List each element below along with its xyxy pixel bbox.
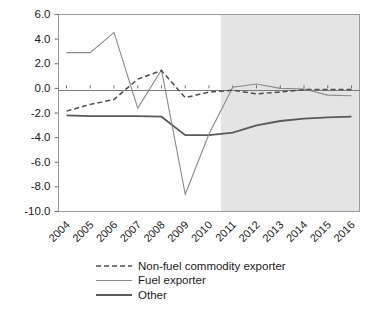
legend-label-2: Fuel exporter — [138, 274, 206, 286]
y-axis-tick-label: -4.0 — [31, 131, 51, 143]
y-axis-tick-label: 4.0 — [35, 33, 51, 45]
line-chart: 6.04.02.00.0-2.0-4.0-6.0-8.0-10.0 200420… — [0, 0, 372, 310]
forecast-shading-group — [221, 15, 360, 212]
y-axis-tick-label: 6.0 — [35, 8, 51, 20]
x-axis-tick-label: 2015 — [307, 218, 333, 244]
legend-label-3: Other — [138, 289, 167, 301]
x-axis-tick-label: 2010 — [189, 218, 215, 244]
x-axis-tick-label: 2012 — [236, 218, 262, 244]
x-axis-tick-label: 2011 — [213, 218, 238, 243]
y-axis-tick-marks — [55, 15, 59, 212]
y-axis-tick-label: 0.0 — [35, 82, 51, 94]
y-axis-tick-label: -6.0 — [31, 156, 51, 168]
y-axis-tick-label: -8.0 — [31, 180, 51, 192]
y-axis-tick-labels: 6.04.02.00.0-2.0-4.0-6.0-8.0-10.0 — [24, 8, 50, 217]
x-axis-tick-label: 2004 — [46, 218, 72, 244]
y-axis-tick-label: -10.0 — [24, 205, 50, 217]
chart-container: 6.04.02.00.0-2.0-4.0-6.0-8.0-10.0 200420… — [0, 0, 372, 310]
legend-label-1: Non-fuel commodity exporter — [138, 260, 286, 272]
x-axis-tick-label: 2008 — [141, 218, 167, 244]
x-axis-tick-label: 2013 — [260, 218, 286, 244]
x-axis-labels-group: 2004200520062007200820092010201120122013… — [46, 218, 357, 244]
y-axis-tick-label: 2.0 — [35, 57, 51, 69]
forecast-shaded-region — [221, 15, 360, 212]
x-axis-tick-label: 2006 — [94, 218, 120, 244]
x-axis-tick-label: 2016 — [331, 218, 357, 244]
y-axis-tick-label: -2.0 — [31, 107, 51, 119]
x-axis-tick-label: 2014 — [284, 218, 310, 244]
x-axis-tick-label: 2005 — [70, 218, 96, 244]
x-axis-tick-label: 2007 — [117, 218, 143, 244]
chart-legend: Non-fuel commodity exporterFuel exporter… — [96, 260, 286, 301]
x-axis-tick-label: 2009 — [165, 218, 191, 244]
